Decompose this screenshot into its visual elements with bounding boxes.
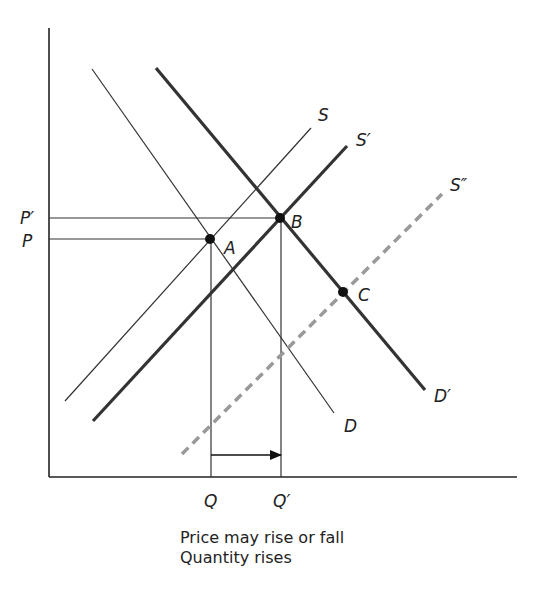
label-s: S	[318, 105, 329, 125]
label-point-b: B	[291, 212, 303, 232]
label-d-prime: D′	[434, 386, 451, 406]
label-quantity-q-prime: Q′	[273, 491, 290, 511]
equilibrium-point-c	[338, 287, 348, 297]
label-quantity-q: Q	[204, 491, 217, 511]
label-s-prime: S′	[356, 130, 371, 150]
label-s-double-prime: S″	[450, 175, 468, 195]
label-d: D	[344, 416, 357, 436]
caption-price: Price may rise or fall	[180, 528, 344, 547]
supply-curve-s-prime	[93, 146, 347, 421]
equilibrium-point-b	[275, 213, 285, 223]
label-price-p-prime: P′	[20, 208, 34, 228]
label-price-p: P	[22, 231, 33, 251]
label-point-a: A	[223, 238, 236, 258]
supply-demand-diagram: S S′ S″ D D′ A B C P′ P Q Q′ Price may r…	[0, 0, 534, 598]
supply-curve-s	[65, 128, 311, 401]
caption-quantity: Quantity rises	[180, 548, 292, 567]
equilibrium-point-a	[205, 234, 215, 244]
label-point-c: C	[358, 285, 370, 305]
supply-curve-s-double-prime	[182, 194, 442, 454]
